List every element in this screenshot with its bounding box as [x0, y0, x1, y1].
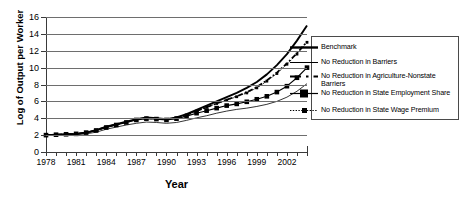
legend-item-benchmark[interactable]: Benchmark [312, 42, 458, 53]
gridline [46, 17, 307, 18]
x-tick [177, 152, 178, 156]
x-tick [96, 152, 97, 156]
x-tick [267, 152, 268, 156]
gridline [46, 34, 307, 35]
x-axis-title: Year [46, 178, 307, 190]
y-tick [41, 68, 46, 69]
legend-label: Benchmark [319, 42, 356, 51]
x-tick-label: 1996 [217, 158, 236, 167]
x-tick [76, 152, 77, 156]
x-tick [227, 152, 228, 156]
y-tick-label: 8 [15, 80, 39, 89]
y-tick-label: 4 [15, 114, 39, 123]
gridline [46, 135, 307, 136]
legend-item-no-reduction-state-wage-premium[interactable]: No Reduction in State Wage Premium [312, 105, 458, 116]
y-tick [41, 17, 46, 18]
y-tick-label: 2 [15, 131, 39, 140]
y-tick [41, 85, 46, 86]
y-tick-label: 16 [15, 13, 39, 22]
x-tick-label: 1978 [37, 158, 56, 167]
x-tick [136, 152, 137, 156]
gridline [46, 51, 307, 52]
x-tick [116, 152, 117, 156]
x-tick [187, 152, 188, 156]
y-tick-label: 6 [15, 97, 39, 106]
x-tick-label: 1990 [157, 158, 176, 167]
chart-legend: Benchmark No Reduction in Barriers No Re… [311, 36, 459, 120]
x-tick [86, 152, 87, 156]
x-tick-label: 1999 [247, 158, 266, 167]
x-tick [46, 152, 47, 156]
x-tick-label: 1987 [127, 158, 146, 167]
y-tick [41, 118, 46, 119]
legend-item-no-reduction-state-employment-share[interactable]: No Reduction in State Employment Share [312, 88, 458, 99]
gridlines [46, 17, 307, 152]
gridline [46, 68, 307, 69]
y-tick-label: 14 [15, 29, 39, 38]
legend-key-dashed-icon [289, 71, 319, 82]
x-tick [197, 152, 198, 156]
legend-item-no-reduction-agriculture-nonstate-barriers[interactable]: No Reduction in Agriculture-Nonstate Bar… [312, 71, 458, 88]
x-tick [297, 152, 298, 156]
x-tick [217, 152, 218, 156]
x-tick [66, 152, 67, 156]
x-tick [277, 152, 278, 156]
legend-label: No Reduction in Barriers [319, 57, 397, 66]
x-tick [237, 152, 238, 156]
x-tick [106, 152, 107, 156]
legend-key-square-marker-icon [289, 88, 319, 99]
y-tick-label: 12 [15, 46, 39, 55]
gridline [46, 101, 307, 102]
legend-key-dotted-marker-icon [289, 105, 319, 116]
y-tick [41, 51, 46, 52]
x-tick-label: 1993 [187, 158, 206, 167]
chart-figure: Log of Output per Worker 0246810121416 1… [0, 0, 462, 197]
x-tick [166, 152, 167, 156]
x-tick [126, 152, 127, 156]
legend-label: No Reduction in Agriculture-Nonstate Bar… [319, 71, 458, 88]
x-tick-label: 2002 [277, 158, 296, 167]
gridline [46, 85, 307, 86]
legend-key-thin-solid-icon [289, 57, 319, 68]
legend-key-thick-solid-icon [289, 42, 319, 53]
plot-area: 0246810121416 19781981198419871990199319… [46, 17, 307, 152]
x-tick [156, 152, 157, 156]
x-tick-label: 1984 [97, 158, 116, 167]
y-tick [41, 135, 46, 136]
x-tick-label: 1981 [67, 158, 86, 167]
x-tick [146, 152, 147, 156]
y-tick-label: 0 [15, 148, 39, 157]
gridline [46, 118, 307, 119]
x-tick [307, 152, 308, 156]
x-tick [247, 152, 248, 156]
x-tick [207, 152, 208, 156]
y-tick [41, 101, 46, 102]
legend-label: No Reduction in State Wage Premium [319, 105, 439, 114]
legend-item-no-reduction-barriers[interactable]: No Reduction in Barriers [312, 57, 458, 68]
legend-label: No Reduction in State Employment Share [319, 88, 450, 97]
y-tick [41, 34, 46, 35]
x-tick [257, 152, 258, 156]
y-tick-label: 10 [15, 63, 39, 72]
x-tick [56, 152, 57, 156]
x-tick [287, 152, 288, 156]
